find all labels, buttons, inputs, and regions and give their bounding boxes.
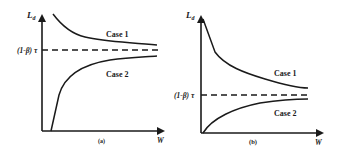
panel-b: Ld (1-β) τ Case 1 Case 2 (b) W xyxy=(174,10,323,147)
caption-a: (a) xyxy=(98,138,105,145)
case1-label-b: Case 1 xyxy=(274,69,296,78)
case2-label-a: Case 2 xyxy=(106,70,128,79)
x-axis-label-a: W xyxy=(157,136,165,145)
x-axis-label-b: W xyxy=(315,138,323,147)
case1-curve-a xyxy=(53,14,157,45)
y-axis-label-b: Ld xyxy=(185,10,196,21)
case1-label-a: Case 1 xyxy=(106,30,128,39)
case2-label-b: Case 2 xyxy=(274,109,296,118)
y-axis-label-a: Ld xyxy=(26,10,37,21)
threshold-label-b: (1-β) τ xyxy=(174,91,195,100)
threshold-label-a: (1-β) τ xyxy=(17,46,38,55)
panel-a: Ld (1-β) τ Case 1 Case 2 (a) W xyxy=(17,10,165,145)
caption-b: (b) xyxy=(249,138,257,146)
case2-curve-a xyxy=(51,56,157,131)
diagram-canvas: Ld (1-β) τ Case 1 Case 2 (a) W Ld (1-β) … xyxy=(0,0,339,150)
